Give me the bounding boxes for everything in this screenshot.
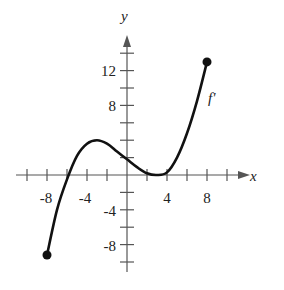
x-axis (16, 169, 250, 181)
x-tick-label: 4 (163, 190, 171, 206)
y-tick-label: -4 (104, 203, 117, 219)
y-tick-labels: 12 8 -4 -8 (101, 63, 116, 254)
y-axis (120, 35, 134, 272)
y-tick-label: 8 (109, 98, 117, 114)
curve-label: f' (208, 90, 216, 106)
endpoint-dot (43, 251, 52, 260)
x-tick-label: 8 (203, 190, 211, 206)
y-tick-label: 12 (101, 63, 116, 79)
chart: x y -8 -4 4 8 12 8 -4 -8 f' (0, 0, 284, 290)
y-axis-label: y (119, 8, 128, 24)
x-axis-arrow-icon (238, 171, 250, 179)
x-axis-label: x (249, 168, 257, 184)
x-tick-label: -8 (40, 190, 53, 206)
x-tick-label: -4 (79, 190, 92, 206)
y-tick-label: -8 (104, 238, 117, 254)
y-axis-arrow-icon (123, 35, 131, 47)
endpoint-dot (203, 57, 212, 66)
